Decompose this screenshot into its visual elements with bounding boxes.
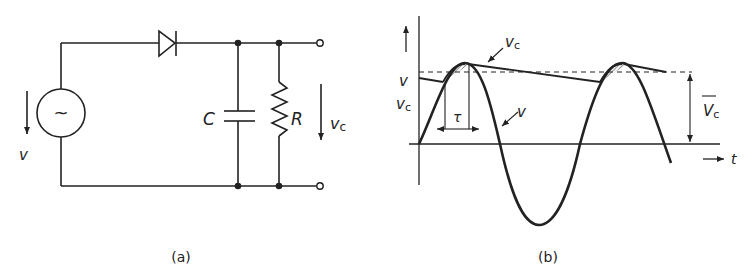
vc-curve-label: vc [505, 33, 520, 52]
y-axis-label-vc: vc [396, 95, 411, 114]
resistor-label: R [291, 109, 303, 129]
vc-leader-arrow-icon [488, 48, 503, 62]
rectifier-figure: ~ v C R vc (a) v vc vc v [0, 0, 756, 277]
output-label: vc [330, 114, 346, 134]
capacitor-label: C [203, 109, 215, 129]
v-curve-label: v [517, 103, 527, 121]
caption-b: (b) [538, 249, 558, 265]
capacitor-voltage-discharge [468, 64, 600, 82]
node-dot-icon [276, 40, 283, 47]
diode-icon [159, 31, 176, 56]
y-axis-label-v: v [399, 72, 409, 90]
source-label: v [19, 146, 29, 164]
node-dot-icon [235, 40, 242, 47]
avg-vc-label: Vc [703, 102, 719, 121]
junction-nodes [235, 40, 283, 190]
output-terminal-top-icon [317, 40, 323, 46]
resistor-icon [272, 82, 287, 136]
output-terminal-bottom-icon [317, 183, 323, 189]
capacitor-icon [224, 111, 255, 121]
v-leader-arrow-icon [502, 112, 518, 126]
source-symbol: ~ [53, 102, 68, 123]
node-dot-icon [235, 183, 242, 190]
caption-a: (a) [171, 249, 191, 265]
capacitor-voltage-curve-start [419, 78, 443, 82]
node-dot-icon [276, 183, 283, 190]
circuit-diagram [27, 31, 321, 186]
tau-label: τ [453, 109, 462, 125]
t-axis-label: t [731, 151, 737, 167]
